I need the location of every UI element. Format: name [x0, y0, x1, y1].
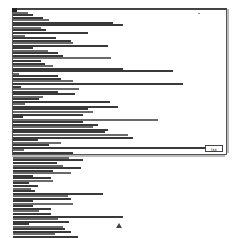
size-button[interactable]: Jxx — [205, 145, 223, 152]
window-shadow-right — [227, 9, 229, 153]
cursor-triangle-icon — [116, 223, 122, 228]
speck — [198, 13, 200, 14]
close-box-icon[interactable] — [12, 8, 17, 12]
window-shadow-bottom — [12, 155, 225, 157]
window-frame: Jxx — [12, 8, 227, 155]
